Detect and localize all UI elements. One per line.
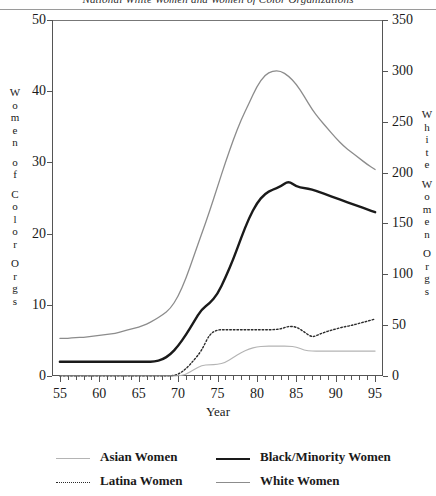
x-tick-minor bbox=[265, 376, 266, 380]
y-tick-label-left: 0 bbox=[20, 369, 46, 383]
axis-title-letter: g bbox=[8, 282, 22, 295]
x-tick-label: 90 bbox=[316, 386, 356, 402]
x-tick-minor bbox=[147, 376, 148, 380]
x-tick-minor bbox=[249, 376, 250, 380]
x-tick-major bbox=[218, 376, 219, 382]
axis-title-letter: f bbox=[8, 168, 22, 181]
x-tick-minor bbox=[107, 376, 108, 380]
y-tick-label-right: 0 bbox=[392, 369, 424, 383]
legend-label: Black/Minority Women bbox=[260, 449, 391, 465]
x-tick-minor bbox=[320, 376, 321, 380]
x-tick-minor bbox=[202, 376, 203, 380]
x-tick-label: 65 bbox=[119, 386, 159, 402]
x-tick-major bbox=[336, 376, 337, 382]
x-tick-label: 55 bbox=[40, 386, 80, 402]
chart-figure: National White Women and Women of Color … bbox=[0, 0, 436, 496]
axis-title-space bbox=[420, 240, 434, 247]
y-tick-left bbox=[47, 91, 52, 92]
x-tick-minor bbox=[288, 376, 289, 380]
y-tick-label-right: 50 bbox=[392, 318, 424, 332]
y-tick-label-right: 100 bbox=[392, 267, 424, 281]
axis-title-letter: s bbox=[420, 285, 434, 298]
x-tick-minor bbox=[162, 376, 163, 380]
x-tick-label: 85 bbox=[276, 386, 316, 402]
y-tick-right bbox=[383, 122, 388, 123]
x-tick-minor bbox=[68, 376, 69, 380]
axis-title-letter: m bbox=[420, 203, 434, 216]
y-tick-label-left: 20 bbox=[20, 227, 46, 241]
y-tick-right bbox=[383, 223, 388, 224]
legend-swatch-icon bbox=[56, 482, 90, 483]
x-tick-label: 80 bbox=[237, 386, 277, 402]
x-tick-minor bbox=[225, 376, 226, 380]
y-tick-label-right: 150 bbox=[392, 216, 424, 230]
x-tick-minor bbox=[241, 376, 242, 380]
x-tick-minor bbox=[359, 376, 360, 380]
legend-label: Latina Women bbox=[100, 473, 182, 489]
y-tick-label-right: 300 bbox=[392, 64, 424, 78]
x-tick-minor bbox=[210, 376, 211, 380]
chart-legend: Asian WomenBlack/Minority WomenLatina Wo… bbox=[0, 448, 436, 496]
y-tick-right bbox=[383, 173, 388, 174]
x-tick-minor bbox=[84, 376, 85, 380]
x-tick-minor bbox=[312, 376, 313, 380]
x-tick-label: 70 bbox=[158, 386, 198, 402]
x-axis-title: Year bbox=[0, 404, 436, 420]
x-tick-major bbox=[99, 376, 100, 382]
series-line-white-women bbox=[60, 71, 375, 339]
axis-title-letter: l bbox=[8, 213, 22, 226]
y-tick-left bbox=[47, 376, 52, 377]
y-tick-label-left: 30 bbox=[20, 155, 46, 169]
y-tick-right bbox=[383, 71, 388, 72]
series-line-latina-women bbox=[60, 319, 375, 376]
y-tick-left bbox=[47, 162, 52, 163]
axis-title-letter: i bbox=[420, 133, 434, 146]
y-tick-label-right: 350 bbox=[392, 13, 424, 27]
chart-title: National White Women and Women of Color … bbox=[0, 0, 436, 5]
legend-label: White Women bbox=[260, 473, 340, 489]
axis-title-letter: O bbox=[8, 257, 22, 270]
x-tick-minor bbox=[304, 376, 305, 380]
series-lines bbox=[52, 20, 383, 376]
x-tick-label: 60 bbox=[79, 386, 119, 402]
x-tick-major bbox=[375, 376, 376, 382]
y-tick-label-left: 10 bbox=[20, 298, 46, 312]
axis-title-letter: o bbox=[8, 99, 22, 112]
x-tick-minor bbox=[186, 376, 187, 380]
y-tick-label-left: 40 bbox=[20, 84, 46, 98]
x-tick-major bbox=[60, 376, 61, 382]
plot-area: 0102030405005010015020025030035055606570… bbox=[52, 20, 383, 376]
y-tick-right bbox=[383, 376, 388, 377]
x-tick-minor bbox=[115, 376, 116, 380]
x-tick-minor bbox=[367, 376, 368, 380]
y-tick-label-left: 50 bbox=[20, 13, 46, 27]
axis-title-letter: e bbox=[8, 124, 22, 137]
axis-title-letter: m bbox=[8, 111, 22, 124]
x-tick-minor bbox=[154, 376, 155, 380]
x-tick-minor bbox=[131, 376, 132, 380]
x-tick-minor bbox=[123, 376, 124, 380]
axis-title-space bbox=[8, 250, 22, 257]
x-tick-minor bbox=[170, 376, 171, 380]
x-tick-minor bbox=[91, 376, 92, 380]
axis-title-letter: O bbox=[420, 247, 434, 260]
axis-title-letter: n bbox=[8, 136, 22, 149]
legend-swatch-icon bbox=[56, 458, 90, 459]
x-tick-minor bbox=[76, 376, 77, 380]
y-tick-left bbox=[47, 234, 52, 235]
axis-title-letter: C bbox=[8, 188, 22, 201]
x-tick-minor bbox=[194, 376, 195, 380]
y-tick-label-right: 200 bbox=[392, 166, 424, 180]
left-axis-title: WomenofColorOrgs bbox=[8, 86, 22, 307]
axis-title-space bbox=[8, 181, 22, 188]
x-tick-label: 75 bbox=[198, 386, 238, 402]
x-tick-major bbox=[178, 376, 179, 382]
axis-title-letter: t bbox=[420, 146, 434, 159]
y-tick-right bbox=[383, 20, 388, 21]
x-tick-major bbox=[296, 376, 297, 382]
y-tick-label-right: 250 bbox=[392, 115, 424, 129]
legend-swatch-icon bbox=[216, 482, 250, 483]
x-tick-minor bbox=[351, 376, 352, 380]
axis-title-letter: o bbox=[8, 200, 22, 213]
x-tick-major bbox=[139, 376, 140, 382]
